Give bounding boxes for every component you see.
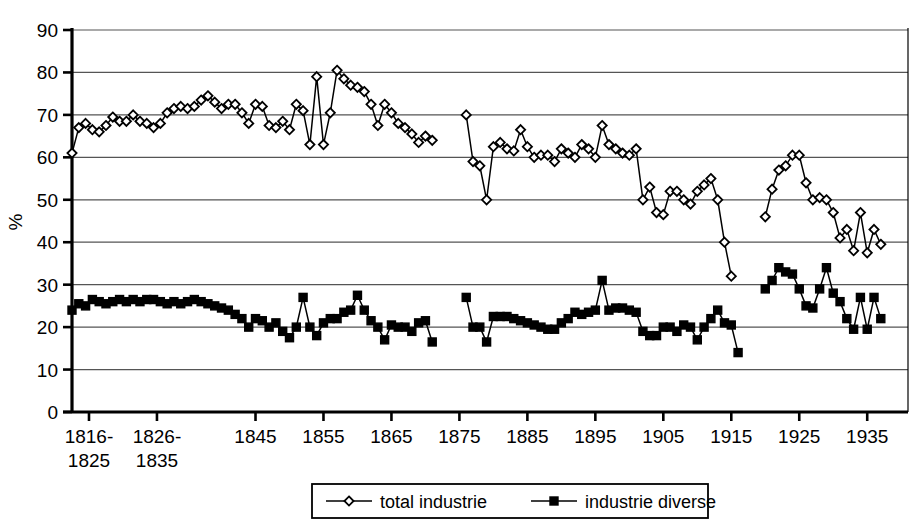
data-point-0-38 [326, 108, 335, 117]
data-point-0-92 [720, 238, 729, 247]
data-point-1-46 [381, 336, 389, 344]
x-tick-label-10: 1925 [778, 426, 820, 447]
data-point-1-56 [476, 323, 484, 331]
data-point-1-74 [598, 276, 606, 284]
data-point-0-62 [516, 125, 525, 134]
data-point-0-45 [373, 121, 382, 130]
data-point-1-110 [863, 325, 871, 333]
legend-label-0: total industrie [380, 492, 487, 512]
data-point-1-42 [353, 291, 361, 299]
data-series-group [67, 66, 885, 357]
y-tick-label-50: 50 [37, 190, 58, 211]
data-point-1-111 [870, 293, 878, 301]
data-point-0-100 [801, 178, 810, 187]
data-point-0-109 [863, 248, 872, 257]
data-point-1-25 [238, 315, 246, 323]
y-tick-label-30: 30 [37, 275, 58, 296]
data-point-0-94 [761, 212, 770, 221]
y-tick-label-40: 40 [37, 232, 58, 253]
x-tick-label-6: 1885 [506, 426, 548, 447]
x-tick-label-5: 1875 [438, 426, 480, 447]
data-point-1-26 [245, 323, 253, 331]
data-point-1-96 [768, 276, 776, 284]
x-tick-label-4: 1865 [370, 426, 412, 447]
x-tick-label-9: 1915 [710, 426, 752, 447]
y-tick-label-70: 70 [37, 105, 58, 126]
y-tick-label-20: 20 [37, 317, 58, 338]
legend-marker-1 [550, 497, 558, 505]
data-point-0-26 [244, 119, 253, 128]
data-point-1-36 [313, 332, 321, 340]
data-point-1-105 [829, 289, 837, 297]
y-axis-label-text: % [5, 213, 26, 230]
data-point-1-34 [299, 293, 307, 301]
data-point-1-54 [462, 293, 470, 301]
data-point-1-45 [374, 323, 382, 331]
data-point-0-37 [319, 140, 328, 149]
data-point-1-41 [347, 306, 355, 314]
data-point-0-35 [305, 140, 314, 149]
x-tick-label-0: 1816-1825 [65, 426, 114, 471]
data-point-0-80 [638, 195, 647, 204]
y-tick-label-90: 90 [37, 20, 58, 41]
data-point-1-93 [727, 321, 735, 329]
x-tick-label-7: 1895 [574, 426, 616, 447]
x-tick-label-2: 1845 [234, 426, 276, 447]
chart-container: 0102030405060708090 1816-18251826-183518… [0, 0, 919, 531]
data-point-0-44 [366, 100, 375, 109]
data-point-1-109 [856, 293, 864, 301]
data-point-0-93 [727, 272, 736, 281]
data-point-0-81 [645, 182, 654, 191]
y-tick-label-10: 10 [37, 360, 58, 381]
series-line-0-seg0 [72, 70, 432, 153]
data-point-0-36 [312, 72, 321, 81]
y-tick-label-60: 60 [37, 147, 58, 168]
x-tick-label-11: 1935 [846, 426, 888, 447]
data-point-1-79 [632, 308, 640, 316]
data-point-1-107 [843, 315, 851, 323]
data-point-1-33 [292, 323, 300, 331]
data-point-0-95 [767, 185, 776, 194]
data-point-1-104 [822, 264, 830, 272]
data-point-1-94 [734, 349, 742, 357]
y-tick-label-80: 80 [37, 62, 58, 83]
data-point-1-82 [653, 332, 661, 340]
data-point-0-54 [462, 110, 471, 119]
data-point-0-107 [849, 246, 858, 255]
data-point-1-112 [877, 315, 885, 323]
data-point-1-91 [714, 306, 722, 314]
data-point-1-103 [816, 285, 824, 293]
legend-label-1: industrie diverse [585, 492, 716, 512]
data-point-1-99 [788, 270, 796, 278]
data-point-0-91 [713, 195, 722, 204]
data-point-1-100 [795, 285, 803, 293]
series-total-industrie [67, 66, 885, 281]
data-point-0-63 [523, 142, 532, 151]
percentage-line-chart: 0102030405060708090 1816-18251826-183518… [0, 0, 919, 531]
data-point-1-32 [285, 334, 293, 342]
data-point-0-74 [598, 121, 607, 130]
data-point-1-89 [700, 323, 708, 331]
y-axis-label: % [5, 213, 26, 230]
data-point-1-57 [483, 338, 491, 346]
data-point-1-90 [707, 315, 715, 323]
data-point-1-102 [809, 304, 817, 312]
data-point-0-57 [482, 195, 491, 204]
series-industrie-diverse [68, 264, 885, 357]
data-point-1-95 [761, 285, 769, 293]
data-point-0-111 [876, 240, 885, 249]
chart-legend: total industrieindustrie diverse [312, 484, 716, 518]
x-tick-label-3: 1855 [302, 426, 344, 447]
data-point-1-30 [272, 319, 280, 327]
data-point-1-73 [591, 306, 599, 314]
x-axis: 1816-18251826-18351845185518651875188518… [63, 28, 908, 471]
data-point-1-35 [306, 323, 314, 331]
data-point-0-104 [829, 208, 838, 217]
x-tick-label-8: 1905 [642, 426, 684, 447]
data-point-0-108 [856, 208, 865, 217]
data-point-1-88 [693, 336, 701, 344]
data-point-1-53 [428, 338, 436, 346]
series-line-0-seg1 [466, 115, 731, 276]
data-point-1-87 [687, 323, 695, 331]
y-axis: 0102030405060708090 [37, 20, 72, 423]
